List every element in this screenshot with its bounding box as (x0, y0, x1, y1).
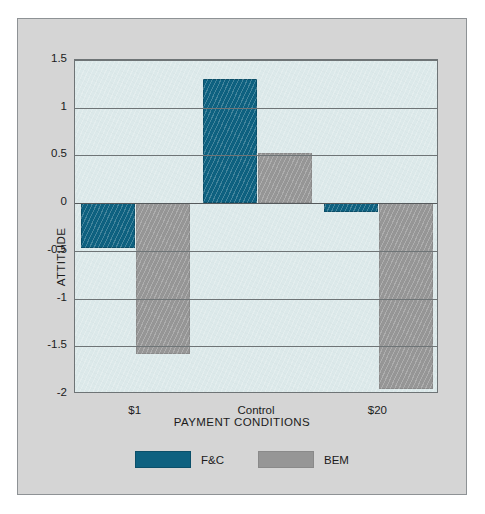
plot-area (74, 59, 438, 393)
gridline-1.5 (75, 60, 437, 61)
bar-fc-control (203, 79, 257, 203)
legend-label: BEM (324, 454, 349, 466)
y-tick-label: 0.5 (51, 149, 67, 161)
y-tick-label: -0.5 (47, 244, 67, 256)
gridline--1 (75, 299, 437, 300)
y-tick-label: 1.5 (51, 53, 67, 65)
y-tick-label: -1 (57, 292, 67, 304)
gridline--1.5 (75, 346, 437, 347)
bar-bem-1 (136, 203, 190, 354)
legend-swatch (135, 451, 191, 468)
y-axis-title: ATTITUDE (55, 227, 67, 286)
x-tick-label: $20 (368, 404, 387, 416)
bar-fc-1 (81, 203, 135, 248)
chart-legend: F&CBEM (18, 451, 466, 468)
gridline-0.5 (75, 155, 437, 156)
gridline--0.5 (75, 251, 437, 252)
gridline-1 (75, 108, 437, 109)
bar-bem-20 (379, 203, 433, 389)
legend-label: F&C (201, 454, 224, 466)
x-tick-label: $1 (128, 404, 141, 416)
y-tick-label: -2 (57, 387, 67, 399)
y-tick-label: -1.5 (47, 340, 67, 352)
y-tick-label: 0 (61, 196, 67, 208)
x-axis-title: PAYMENT CONDITIONS (18, 416, 466, 428)
x-tick-label: Control (237, 404, 274, 416)
chart-figure: ATTITUDE 1.510.50-0.5-1-1.5-2 $1Control$… (17, 18, 467, 495)
plot-wrapper: 1.510.50-0.5-1-1.5-2 $1Control$20 (74, 59, 438, 393)
gridline-0 (75, 203, 437, 204)
bar-bem-control (258, 153, 312, 204)
bar-fc-20 (324, 203, 378, 212)
y-tick-label: 1 (61, 101, 67, 113)
legend-item-bem: BEM (258, 451, 349, 468)
legend-item-fc: F&C (135, 451, 224, 468)
legend-swatch (258, 451, 314, 468)
